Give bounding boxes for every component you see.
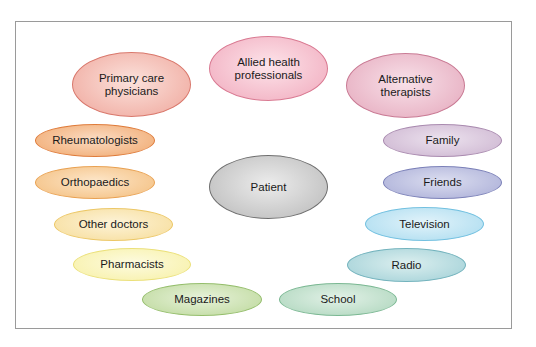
- patient-label: Patient: [251, 181, 287, 194]
- node-label: Radio: [391, 259, 421, 272]
- node-friends: Friends: [383, 166, 502, 199]
- node-radio: Radio: [347, 248, 466, 282]
- node-label: Other doctors: [79, 218, 149, 231]
- node-alternative-therapists: Alternativetherapists: [346, 53, 465, 118]
- node-label: physicians: [105, 85, 159, 98]
- node-label: Television: [399, 218, 450, 231]
- node-label: professionals: [235, 69, 303, 82]
- patient-node: Patient: [209, 155, 328, 219]
- node-television: Television: [365, 207, 484, 241]
- node-primary-care-physicians: Primary carephysicians: [72, 52, 191, 117]
- node-label: Magazines: [174, 293, 230, 306]
- node-label: therapists: [381, 86, 431, 99]
- node-label: Orthopaedics: [61, 176, 129, 189]
- node-rheumatologists: Rheumatologists: [35, 124, 155, 157]
- node-magazines: Magazines: [142, 283, 262, 316]
- node-label: Allied health: [237, 56, 300, 69]
- node-label: Rheumatologists: [52, 134, 138, 147]
- node-pharmacists: Pharmacists: [73, 248, 191, 281]
- node-label: Alternative: [378, 73, 432, 86]
- node-label: Family: [426, 134, 460, 147]
- node-label: Primary care: [99, 72, 164, 85]
- node-other-doctors: Other doctors: [54, 208, 173, 241]
- node-family: Family: [383, 124, 502, 157]
- node-label: Pharmacists: [100, 258, 163, 271]
- node-allied-health-professionals: Allied healthprofessionals: [209, 36, 328, 101]
- node-school: School: [279, 283, 397, 316]
- node-orthopaedics: Orthopaedics: [35, 166, 155, 199]
- node-label: Friends: [423, 176, 461, 189]
- node-label: School: [320, 293, 355, 306]
